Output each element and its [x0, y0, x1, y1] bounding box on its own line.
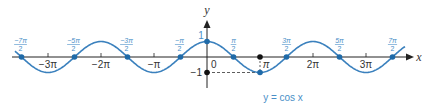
zero-point	[337, 54, 343, 60]
fraction-numerator: 7π	[388, 37, 397, 44]
fraction-label: 3π2	[282, 37, 291, 52]
fraction-denominator: 2	[72, 45, 76, 52]
y-tick-label-neg1: −1	[191, 67, 203, 78]
fraction-numerator: 3π	[282, 37, 291, 44]
cosine-graph: −3π−2π−ππ2π3π −7π2−5π2−3π2−π2π23π25π27π2…	[0, 0, 428, 108]
fraction-label: −π2	[175, 37, 184, 52]
fraction-denominator: 2	[285, 45, 289, 52]
curve-extremum-point	[257, 70, 263, 76]
x-tick-label: −π	[148, 59, 161, 70]
y-tick-label-1: 1	[198, 30, 204, 41]
x-tick-label: 2π	[307, 59, 320, 70]
reference-point	[204, 70, 210, 76]
zero-point	[19, 54, 25, 60]
zero-point	[284, 54, 290, 60]
fraction-label: π2	[231, 37, 237, 52]
zero-point	[125, 54, 131, 60]
x-axis-ticks: −3π−2π−ππ2π3π	[39, 53, 372, 70]
fraction-numerator: π	[231, 37, 236, 44]
fraction-denominator: 2	[125, 45, 129, 52]
fraction-label: 7π2	[388, 37, 397, 52]
fraction-label: −7π2	[14, 37, 27, 52]
zero-point	[72, 54, 78, 60]
x-axis-label: x	[415, 50, 422, 64]
y-axis-label: y	[203, 3, 210, 17]
fraction-numerator: 5π	[335, 37, 344, 44]
fraction-numerator: −π	[175, 37, 184, 44]
y-axis-arrow-icon	[204, 20, 211, 28]
fraction-numerator: −3π	[120, 37, 133, 44]
x-tick-label: −3π	[39, 59, 57, 70]
reference-point	[257, 54, 263, 60]
curve-extremum-point	[204, 39, 210, 45]
x-tick-label: 3π	[360, 59, 373, 70]
fraction-denominator: 2	[232, 45, 236, 52]
fraction-denominator: 2	[391, 45, 395, 52]
fraction-label: −5π2	[67, 37, 80, 52]
fraction-denominator: 2	[338, 45, 342, 52]
x-axis-arrow-icon	[406, 54, 414, 61]
fraction-label: 5π2	[335, 37, 344, 52]
origin-label: 0	[211, 59, 217, 70]
fraction-numerator: −5π	[67, 37, 80, 44]
axes	[12, 20, 414, 88]
fraction-label: −3π2	[120, 37, 133, 52]
zero-point	[231, 54, 237, 60]
zero-point	[178, 54, 184, 60]
fraction-denominator: 2	[178, 45, 182, 52]
graph-caption: y = cos x	[263, 92, 303, 103]
x-tick-label: −2π	[92, 59, 110, 70]
x-tick-label: π	[263, 59, 270, 70]
fraction-denominator: 2	[19, 45, 23, 52]
fraction-numerator: −7π	[14, 37, 27, 44]
zero-point	[390, 54, 396, 60]
